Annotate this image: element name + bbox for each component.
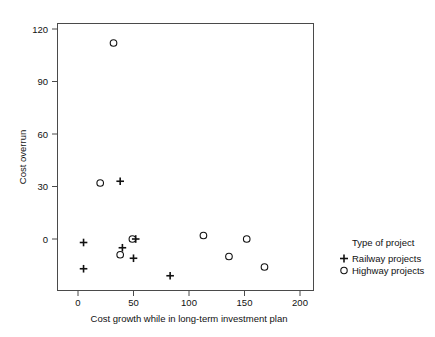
x-tick-label-100: 100 [181, 297, 197, 308]
data-point-circle [200, 232, 207, 239]
x-tick-label-200: 200 [292, 297, 308, 308]
x-tick-label-50: 50 [128, 297, 139, 308]
legend-entry-highway[interactable]: Highway projects [341, 265, 425, 276]
y-tick-label-90: 90 [37, 76, 48, 87]
y-tick-label-120: 120 [32, 24, 48, 35]
data-point-circle [226, 253, 233, 260]
data-point-circle [97, 180, 104, 187]
plus-icon [340, 255, 348, 263]
circle-icon [341, 267, 347, 273]
data-markers [80, 40, 268, 280]
data-point-plus [80, 239, 88, 247]
scatter-plot-svg: 120 90 60 30 0 0 50 100 150 200 Cost gro… [0, 0, 435, 337]
data-point-circle [117, 251, 124, 258]
data-point-plus [80, 265, 88, 273]
y-tick-label-0: 0 [43, 234, 48, 245]
legend-entry-railway[interactable]: Railway projects [340, 253, 421, 264]
plot-frame [58, 24, 314, 291]
legend-label-highway: Highway projects [352, 265, 425, 276]
data-point-circle [110, 40, 117, 47]
data-point-plus [166, 272, 174, 280]
x-axis-ticks [78, 291, 300, 297]
y-tick-label-60: 60 [37, 129, 48, 140]
legend-label-railway: Railway projects [352, 253, 421, 264]
data-point-plus [130, 254, 138, 262]
data-point-circle [261, 264, 268, 271]
x-axis-title: Cost growth while in long-term investmen… [91, 313, 288, 324]
y-axis-ticks [52, 29, 58, 239]
legend: Type of project Railway projects Highway… [340, 237, 425, 276]
x-tick-label-150: 150 [237, 297, 253, 308]
legend-title: Type of project [352, 237, 415, 248]
y-axis-title: Cost overrun [17, 130, 28, 184]
chart-canvas: 120 90 60 30 0 0 50 100 150 200 Cost gro… [0, 0, 435, 337]
y-tick-label-30: 30 [37, 181, 48, 192]
data-point-plus [116, 177, 124, 185]
data-point-circle [243, 236, 250, 243]
x-tick-label-0: 0 [75, 297, 80, 308]
data-point-plus [119, 244, 127, 252]
